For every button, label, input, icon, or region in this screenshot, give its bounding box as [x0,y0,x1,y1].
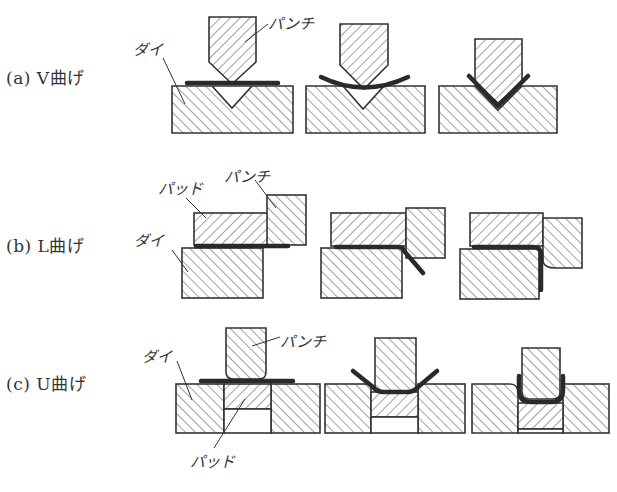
u-bending-stage-1 [176,328,320,448]
leader-punch [255,180,276,208]
pad-cavity [371,417,418,433]
die [172,86,293,133]
die-right [563,384,609,433]
die [460,249,539,299]
die-right [418,384,465,433]
punch [406,208,445,258]
punch [375,338,416,392]
pad [518,403,563,429]
die-left [176,384,224,433]
l-bending-stage-1 [172,180,306,298]
pad [371,392,418,417]
u-bending-stage-3 [472,348,609,433]
die-left [325,384,371,433]
die-right [271,384,320,433]
punch [209,17,256,84]
u-bending-stage-2 [325,338,465,433]
pad [470,213,543,246]
pad [224,384,271,409]
die [306,86,425,133]
v-bending-stage-2 [306,24,425,133]
punch [543,218,582,268]
punch [226,328,266,379]
punch [340,24,388,89]
bending-diagram [0,0,617,492]
pad-cavity [518,429,563,433]
die [321,248,402,298]
l-bending-stage-3 [460,213,582,299]
pad [331,213,406,246]
punch [522,348,560,399]
die-left [472,384,518,433]
v-bending-stage-3 [439,39,557,133]
die [182,248,263,298]
v-bending-stage-1 [163,17,293,133]
l-bending-stage-2 [321,208,445,298]
punch [267,195,306,245]
